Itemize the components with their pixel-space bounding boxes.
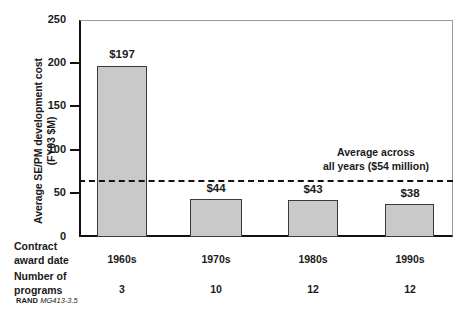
count-cell-1970s: 10 [171, 283, 261, 297]
bar-1980s [288, 200, 338, 237]
average-reference-line [79, 180, 453, 182]
bar-value-1960s: $197 [82, 47, 162, 61]
count-cell-1980s: 12 [268, 283, 358, 297]
y-tick-label-150: 150 [28, 98, 66, 113]
y-tick-mark-50 [70, 192, 79, 194]
category-cell-1990s: 1990s [365, 253, 455, 267]
row-label-contract-award-date-line1: Contract [14, 240, 100, 254]
y-tick-label-100: 100 [28, 142, 66, 157]
row-label-number-of-programs-line1: Number of [14, 270, 100, 284]
y-tick-mark-200 [70, 62, 79, 64]
category-cell-1980s: 1980s [268, 253, 358, 267]
category-cell-1960s: 1960s [77, 253, 167, 267]
y-axis-title-line2: (FY03 $M) [45, 117, 58, 166]
average-annotation-line1: Average across [300, 145, 452, 159]
bar-value-1990s: $38 [370, 186, 450, 200]
count-cell-1960s: 3 [77, 283, 167, 297]
bar-1960s [97, 66, 147, 237]
count-cell-1990s: 12 [365, 283, 455, 297]
bar-1970s [190, 199, 242, 237]
source-org: RAND [16, 296, 38, 305]
source-note: RAND MG413-3.5 [16, 296, 78, 305]
y-tick-mark-150 [70, 105, 79, 107]
y-tick-label-250: 250 [28, 12, 66, 27]
bar-value-1980s: $43 [273, 182, 353, 196]
bar-1990s [385, 204, 434, 237]
source-id: MG413-3.5 [40, 296, 78, 305]
average-annotation-line2: all years ($54 million) [300, 159, 452, 173]
bar-value-1970s: $44 [176, 181, 256, 195]
y-tick-label-50: 50 [28, 185, 66, 200]
y-tick-label-200: 200 [28, 55, 66, 70]
category-cell-1970s: 1970s [171, 253, 261, 267]
bar-chart-figure: Average SE/PM development cost (FY03 $M)… [0, 0, 469, 320]
y-tick-mark-100 [70, 149, 79, 151]
average-annotation: Average across all years ($54 million) [300, 145, 452, 173]
